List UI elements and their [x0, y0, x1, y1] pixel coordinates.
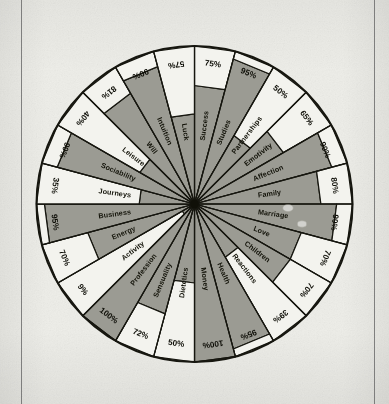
scan-smudge-a	[283, 204, 293, 211]
wheel-chart: SuccessStudiesPartnershipsEmotivityAffec…	[0, 0, 389, 404]
wheel-chart-svg: SuccessStudiesPartnershipsEmotivityAffec…	[0, 0, 389, 404]
scan-smudge-b	[297, 221, 306, 227]
wheel-hub	[190, 200, 198, 208]
